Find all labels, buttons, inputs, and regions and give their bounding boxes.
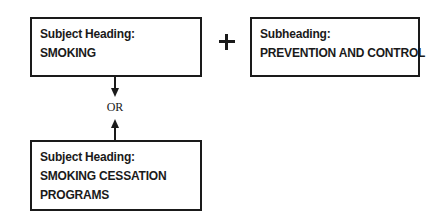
subject-heading-label: Subject Heading:: [40, 148, 200, 167]
subject-heading-value-line1: SMOKING CESSATION: [40, 167, 200, 186]
subheading-label: Subheading:: [260, 25, 418, 44]
subheading-box-prevention: Subheading: PREVENTION AND CONTROL: [250, 17, 420, 77]
subheading-value: PREVENTION AND CONTROL: [260, 44, 418, 63]
subject-heading-value-line2: PROGRAMS: [40, 186, 200, 205]
plus-icon: [219, 34, 235, 50]
subject-heading-box-cessation: Subject Heading: SMOKING CESSATION PROGR…: [30, 140, 202, 211]
connector-line-up: [114, 127, 116, 140]
subject-heading-label: Subject Heading:: [40, 25, 200, 44]
subject-heading-box-smoking: Subject Heading: SMOKING: [30, 17, 202, 77]
arrow-down-icon: [111, 88, 119, 97]
subject-heading-value: SMOKING: [40, 44, 200, 63]
or-label: OR: [100, 100, 130, 115]
